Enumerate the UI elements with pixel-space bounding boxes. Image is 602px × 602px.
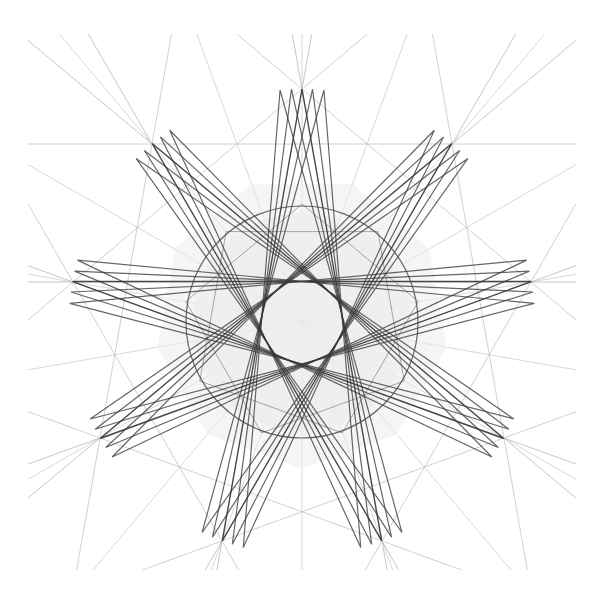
geometry-canvas — [0, 0, 602, 602]
figure-root — [0, 0, 602, 602]
inner-core-fill — [194, 212, 411, 432]
